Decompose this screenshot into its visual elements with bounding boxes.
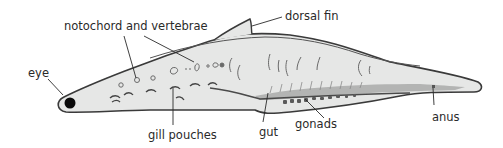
anus-marker [432,85,435,88]
lancelet-diagram: notochord and vertebrae dorsal fin eye g… [0,0,503,148]
body-outline [58,34,481,114]
eye-spot [65,98,76,109]
label-gonads: gonads [295,117,337,131]
label-dorsal-fin: dorsal fin [285,9,339,23]
label-gut: gut [259,125,279,139]
label-eye: eye [28,66,49,80]
leader-dorsal-fin [252,17,282,26]
label-gill-pouches: gill pouches [148,128,217,142]
label-anus: anus [432,110,460,124]
label-notochord: notochord and vertebrae [64,19,208,33]
leader-eye [48,79,63,95]
